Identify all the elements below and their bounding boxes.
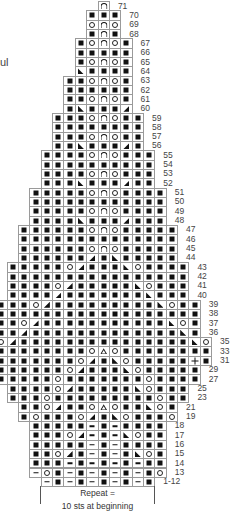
filled-square-icon: [181, 368, 186, 373]
filled-square-icon: [135, 181, 140, 186]
right-triangle-icon: [123, 106, 129, 112]
filled-square-icon: [124, 396, 129, 401]
filled-square-icon: [181, 358, 186, 363]
left-triangle-icon: [123, 367, 129, 373]
filled-square-icon: [78, 116, 83, 121]
filled-square-icon: [203, 349, 208, 354]
open-circle-icon: [33, 302, 39, 308]
filled-square-icon: [181, 386, 186, 391]
filled-square-icon: [158, 190, 163, 195]
filled-square-icon: [113, 396, 118, 401]
filled-square-icon: [33, 424, 38, 429]
open-circle-icon: [135, 432, 141, 438]
open-circle-icon: [157, 404, 163, 410]
filled-square-icon: [67, 358, 72, 363]
open-circle-icon: [112, 134, 118, 140]
filled-square-icon: [10, 330, 15, 335]
right-triangle-icon: [89, 358, 95, 364]
filled-square-icon: [22, 377, 27, 382]
filled-square-icon: [124, 69, 129, 74]
filled-square-icon: [10, 265, 15, 270]
filled-square-icon: [56, 470, 61, 475]
open-circle-icon: [123, 358, 129, 364]
filled-square-icon: [135, 172, 140, 177]
filled-square-icon: [90, 321, 95, 326]
filled-square-icon: [44, 200, 49, 205]
filled-square-icon: [56, 256, 61, 261]
left-triangle-icon: [192, 339, 198, 345]
filled-square-icon: [56, 414, 61, 419]
filled-square-icon: [22, 246, 27, 251]
filled-square-icon: [78, 78, 83, 83]
filled-square-icon: [56, 479, 61, 484]
filled-square-icon: [135, 312, 140, 317]
right-triangle-icon: [55, 404, 61, 410]
filled-square-icon: [169, 386, 174, 391]
filled-square-icon: [135, 246, 140, 251]
filled-square-icon: [124, 200, 129, 205]
filled-square-icon: [44, 228, 49, 233]
filled-square-icon: [101, 377, 106, 382]
filled-square-icon: [33, 265, 38, 270]
filled-square-icon: [22, 349, 27, 354]
filled-square-icon: [158, 284, 163, 289]
open-circle-icon: [89, 171, 95, 177]
filled-square-icon: [135, 274, 140, 279]
filled-square-icon: [33, 209, 38, 214]
filled-square-icon: [124, 349, 129, 354]
filled-square-icon: [56, 312, 61, 317]
open-circle-icon: [112, 115, 118, 121]
open-circle-icon: [112, 152, 118, 158]
filled-square-icon: [33, 349, 38, 354]
filled-square-icon: [113, 200, 118, 205]
filled-square-icon: [67, 181, 72, 186]
row-label: 31: [220, 356, 229, 365]
filled-square-icon: [169, 256, 174, 261]
filled-square-icon: [181, 396, 186, 401]
open-circle-icon: [123, 414, 129, 420]
filled-square-icon: [101, 470, 106, 475]
filled-square-icon: [90, 377, 95, 382]
open-circle-icon: [112, 208, 118, 214]
repeat-bracket-right-line: [154, 486, 155, 504]
filled-square-icon: [147, 396, 152, 401]
filled-square-icon: [78, 461, 83, 466]
filled-square-icon: [67, 237, 72, 242]
filled-square-icon: [44, 181, 49, 186]
filled-square-icon: [169, 265, 174, 270]
filled-square-icon: [124, 424, 129, 429]
filled-square-icon: [101, 451, 106, 456]
filled-square-icon: [169, 396, 174, 401]
filled-square-icon: [101, 340, 106, 345]
filled-square-icon: [22, 237, 27, 242]
dash-icon: [113, 444, 118, 446]
filled-square-icon: [67, 330, 72, 335]
filled-square-icon: [101, 442, 106, 447]
filled-square-icon: [124, 237, 129, 242]
open-circle-icon: [89, 59, 95, 65]
left-triangle-icon: [180, 330, 186, 336]
open-circle-icon: [44, 395, 50, 401]
filled-square-icon: [101, 386, 106, 391]
open-circle-icon: [89, 152, 95, 158]
filled-square-icon: [78, 479, 83, 484]
filled-square-icon: [56, 134, 61, 139]
filled-square-icon: [33, 190, 38, 195]
filled-square-icon: [78, 424, 83, 429]
filled-square-icon: [192, 302, 197, 307]
left-triangle-icon: [123, 264, 129, 270]
right-triangle-icon: [123, 143, 129, 149]
filled-square-icon: [147, 321, 152, 326]
filled-square-icon: [78, 349, 83, 354]
dash-icon: [135, 481, 140, 483]
filled-square-icon: [158, 321, 163, 326]
filled-square-icon: [44, 340, 49, 345]
left-triangle-icon: [78, 218, 84, 224]
filled-square-icon: [10, 284, 15, 289]
filled-square-icon: [56, 433, 61, 438]
filled-square-icon: [67, 172, 72, 177]
filled-square-icon: [158, 340, 163, 345]
filled-square-icon: [192, 312, 197, 317]
left-triangle-icon: [78, 68, 84, 74]
filled-square-icon: [124, 228, 129, 233]
